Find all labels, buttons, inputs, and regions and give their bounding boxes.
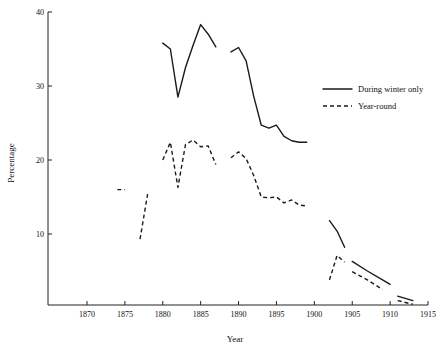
legend-label-during-winter-only: During winter only	[358, 84, 424, 94]
series-line-year-round-segment-3	[231, 152, 307, 206]
x-tick-label-1880: 1880	[155, 310, 171, 319]
x-tick-label-1910: 1910	[382, 310, 398, 319]
y-tick-label-30: 30	[36, 82, 44, 91]
y-tick-label-20: 20	[36, 156, 44, 165]
series-line-during-winter-only-segment-1	[231, 48, 307, 143]
y-axis-title: Percentage	[6, 143, 16, 182]
x-tick-label-1890: 1890	[231, 310, 247, 319]
series-line-year-round-segment-4	[329, 255, 344, 279]
y-tick-label-10: 10	[36, 230, 44, 239]
series-line-during-winter-only-segment-3	[352, 261, 390, 284]
line-chart: 1870187518801885189018951900190519101915…	[0, 0, 447, 348]
series-line-year-round-segment-5	[352, 272, 382, 290]
x-axis-title: Year	[227, 334, 244, 344]
y-tick-label-40: 40	[36, 8, 44, 17]
series-line-year-round-segment-1	[140, 194, 148, 239]
x-tick-label-1885: 1885	[193, 310, 209, 319]
x-axis-ticks: 1870187518801885189018951900190519101915	[79, 301, 436, 319]
x-tick-label-1905: 1905	[344, 310, 360, 319]
series-line-during-winter-only-segment-4	[398, 296, 413, 300]
axes: 1870187518801885189018951900190519101915…	[36, 8, 436, 319]
series-line-year-round-segment-6	[398, 301, 413, 305]
chart-page: 1870187518801885189018951900190519101915…	[0, 0, 447, 348]
y-axis-ticks: 10203040	[36, 8, 52, 239]
series-line-during-winter-only-segment-0	[163, 25, 216, 98]
legend-label-year-round: Year-round	[358, 101, 397, 111]
x-tick-label-1875: 1875	[117, 310, 133, 319]
x-tick-label-1915: 1915	[420, 310, 436, 319]
data-series-group	[117, 25, 413, 305]
x-tick-label-1895: 1895	[268, 310, 284, 319]
series-line-during-winter-only-segment-2	[329, 221, 344, 248]
series-line-year-round-segment-2	[163, 140, 216, 187]
legend: During winter only Year-round	[323, 84, 424, 111]
x-tick-label-1900: 1900	[306, 310, 322, 319]
x-tick-label-1870: 1870	[79, 310, 95, 319]
